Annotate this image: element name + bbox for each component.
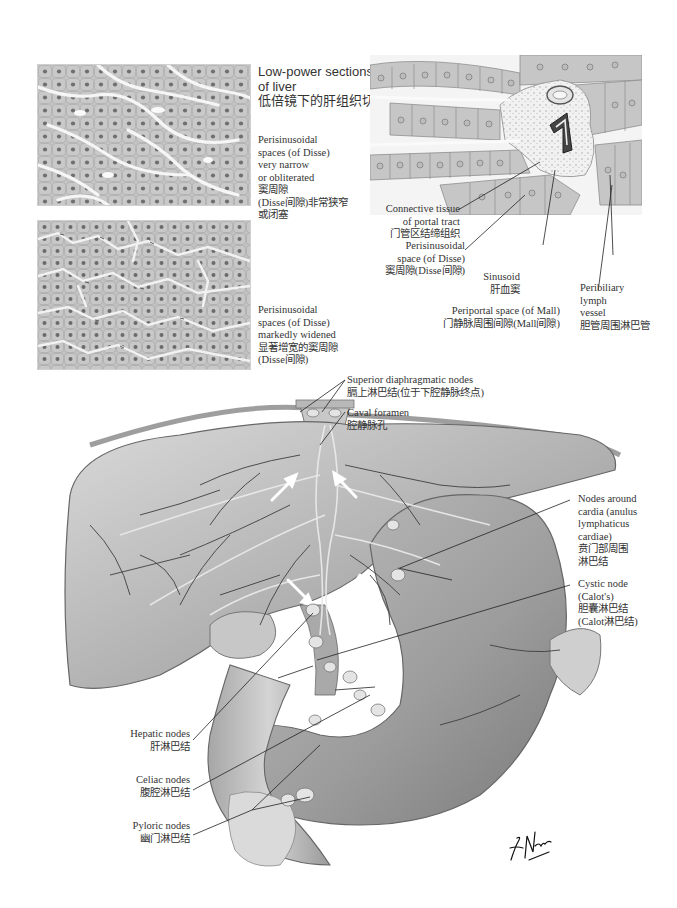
label-line: of portal tract [332, 216, 460, 229]
label-line: Sinusoid [470, 271, 520, 284]
caption-line: markedly widened [258, 329, 338, 342]
label-line: (Calot淋巴结) [578, 616, 638, 629]
label-nodes-around-cardia: Nodes around cardia (anulus lymphaticus … [578, 493, 637, 568]
label-line: 腔静脉孔 [347, 420, 409, 433]
title-en-line1: Low-power sections [258, 65, 388, 80]
label-line: Nodes around [578, 493, 637, 506]
label-celiac-nodes: Celiac nodes 腹腔淋巴结 [90, 774, 190, 799]
label-line: Perisinusoidal [345, 240, 465, 253]
label-line: 淋巴结 [578, 556, 637, 569]
label-line: Connective tissue [332, 203, 460, 216]
caption-line: spaces (of Disse) [258, 317, 338, 330]
histology-widened-spaces-image [37, 220, 251, 370]
title-en-line2: of liver [258, 80, 388, 95]
label-line: 窦周隙(Disse间隙) [345, 265, 465, 278]
label-connective-tissue: Connective tissue of portal tract 门管区结缔组… [332, 203, 460, 241]
label-superior-diaphragmatic-nodes: Superior diaphragmatic nodes 膈上淋巴结(位于下腔静… [347, 374, 484, 399]
label-line: 肝血窦 [470, 284, 520, 297]
label-line: 贲门部周围 [578, 543, 637, 556]
label-hepatic-nodes: Hepatic nodes 肝淋巴结 [90, 728, 190, 753]
label-line: 膈上淋巴结(位于下腔静脉终点) [347, 387, 484, 400]
label-periportal-space: Periportal space (of Mall) 门静脉周围间隙(Mall间… [430, 305, 560, 330]
hepatocyte-cords-narrow [38, 65, 250, 205]
label-line: Peribiliary [580, 282, 650, 295]
caption-line: (Disse间隙) [258, 354, 338, 367]
label-line: 肝淋巴结 [90, 741, 190, 754]
label-line: Periportal space (of Mall) [430, 305, 560, 318]
caption-line: Perisinusoidal [258, 304, 338, 317]
label-cystic-node: Cystic node (Calot's) 胆囊淋巴结 (Calot淋巴结) [578, 578, 638, 628]
label-line: (Calot's) [578, 591, 638, 604]
label-peribiliary-lymph-vessel: Peribiliary lymph vessel 胆管周围淋巴管 [580, 282, 650, 332]
label-perisinusoidal-space: Perisinusoidal space (of Disse) 窦周隙(Diss… [345, 240, 465, 278]
caption-line: Perisinusoidal [258, 134, 348, 147]
label-line: 胆管周围淋巴管 [580, 320, 650, 333]
label-line: 幽门淋巴结 [90, 833, 190, 846]
label-line: Superior diaphragmatic nodes [347, 374, 484, 387]
label-line: Pyloric nodes [90, 820, 190, 833]
title-zh: 低倍镜下的肝组织切片 [258, 94, 388, 109]
label-line: lymph [580, 295, 650, 308]
signature-glyph [505, 822, 555, 867]
caption-line: 显著增宽的窦周隙 [258, 342, 338, 355]
label-line: Hepatic nodes [90, 728, 190, 741]
label-line: vessel [580, 307, 650, 320]
label-line: Celiac nodes [90, 774, 190, 787]
label-line: 腹腔淋巴结 [90, 787, 190, 800]
caption-widened-spaces: Perisinusoidal spaces (of Disse) markedl… [258, 304, 338, 367]
label-pyloric-nodes: Pyloric nodes 幽门淋巴结 [90, 820, 190, 845]
histology-narrow-spaces-image [37, 64, 251, 206]
label-line: 门管区结缔组织 [332, 228, 460, 241]
label-line: Cystic node [578, 578, 638, 591]
low-power-sections-title: Low-power sections of liver 低倍镜下的肝组织切片 [258, 65, 388, 109]
label-caval-foramen: Caval foramen 腔静脉孔 [347, 407, 409, 432]
label-line: Caval foramen [347, 407, 409, 420]
lymphatics-leader-lines [0, 370, 677, 840]
label-line: space (of Disse) [345, 253, 465, 266]
label-line: cardia (anulus [578, 506, 637, 519]
hepatocyte-cords-widened [38, 221, 250, 369]
label-line: 胆囊淋巴结 [578, 603, 638, 616]
label-line: 门静脉周围间隙(Mall间隙) [430, 318, 560, 331]
netter-signature [505, 822, 555, 867]
label-line: lymphaticus [578, 518, 637, 531]
label-sinusoid: Sinusoid 肝血窦 [470, 271, 520, 296]
label-line: cardiae) [578, 531, 637, 544]
